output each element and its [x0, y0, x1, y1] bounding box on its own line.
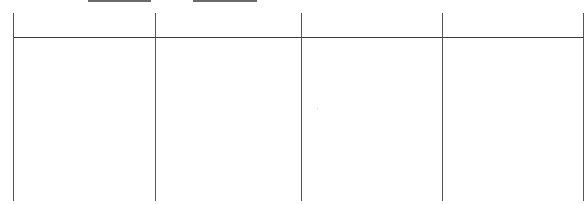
table-header-cell — [443, 13, 583, 37]
table-header-divider — [13, 37, 584, 38]
table-column-divider — [155, 13, 156, 201]
blank-field-2[interactable] — [193, 0, 257, 2]
table-cell[interactable] — [443, 38, 583, 200]
table-cell[interactable] — [302, 38, 442, 200]
table-column-divider — [301, 13, 302, 201]
scan-speck — [317, 108, 318, 109]
table-border-left — [13, 13, 14, 201]
table-header-cell — [302, 13, 442, 37]
blank-field-1[interactable] — [88, 0, 151, 2]
table-cell[interactable] — [14, 38, 155, 200]
table-border-right — [583, 13, 584, 201]
table-header-cell — [14, 13, 155, 37]
table-header-cell — [156, 13, 301, 37]
table-cell[interactable] — [156, 38, 301, 200]
table-column-divider — [442, 13, 443, 201]
